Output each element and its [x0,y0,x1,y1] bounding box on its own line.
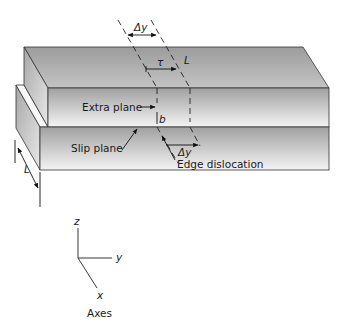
label-L-side: L [24,164,30,175]
label-delta-y-top: Δy [134,22,147,33]
label-slip-plane: Slip plane [71,143,123,154]
label-edge-dislocation: Edge dislocation [177,159,263,170]
label-L-top: L [184,55,190,66]
x-axis-line [78,258,97,288]
axis-label-z: z [74,216,80,227]
diagram-graphics [0,0,341,329]
edge-dislocation-diagram: Δy τ L Extra plane b Slip plane Δy Edge … [0,0,341,329]
label-extra-plane: Extra plane [82,102,142,113]
axis-label-y: y [116,252,122,263]
top-block-top-face [24,47,329,88]
axes-triad [78,228,112,288]
label-b: b [159,114,166,125]
axes-caption: Axes [87,308,112,319]
label-delta-y-bottom: Δy [178,147,191,158]
axis-label-x: x [97,290,103,301]
label-tau: τ [157,57,163,68]
